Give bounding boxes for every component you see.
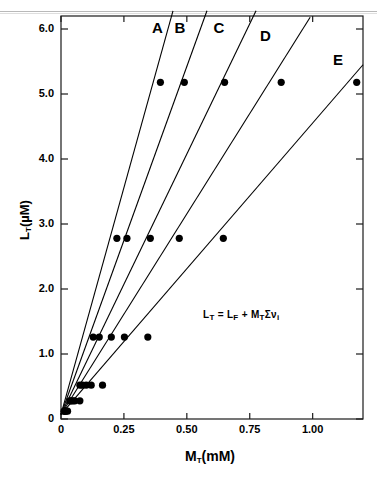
x-tick-label: 0.25: [104, 423, 144, 435]
y-tick-label: 1.0: [20, 347, 54, 359]
eqn-equals: =: [218, 309, 224, 320]
eqn-lf-sub: F: [233, 313, 238, 322]
eqn-plus: +: [242, 309, 248, 320]
equation-annotation: LT = LF + MTΣνi: [203, 309, 279, 322]
y-tick-label: 2.0: [20, 282, 54, 294]
y-axis-title-main: L: [17, 232, 32, 240]
curve-label-c: C: [214, 19, 225, 36]
x-tick-label: 0: [41, 423, 81, 435]
y-tick-label: 4.0: [20, 152, 54, 164]
figure-container: LT(µM) MT(mM) LT = LF + MTΣνi 01.02.03.0…: [0, 0, 377, 481]
eqn-sum-sub: i: [277, 313, 280, 322]
y-tick-label: 3.0: [20, 217, 54, 229]
eqn-sum: Σν: [265, 309, 277, 320]
x-tick-label: 0.50: [167, 423, 207, 435]
curve-label-d: D: [260, 27, 271, 44]
x-tick-label: 0.75: [230, 423, 270, 435]
axis-ticks: [61, 16, 363, 419]
eqn-mt: M: [251, 309, 260, 320]
x-axis-title-main: M: [185, 448, 197, 464]
curve-label-b: B: [175, 19, 186, 36]
curve-label-a: A: [152, 19, 163, 36]
data-point-markers: [60, 79, 360, 415]
y-tick-label: 6.0: [20, 22, 54, 34]
x-axis-title: MT(mM): [110, 448, 310, 465]
x-tick-label: 1.00: [293, 423, 333, 435]
x-axis-title-unit: (mM): [202, 448, 235, 464]
series-lines: [61, 11, 363, 415]
plot-canvas: [0, 0, 377, 481]
curve-label-e: E: [333, 51, 343, 68]
y-tick-label: 5.0: [20, 87, 54, 99]
eqn-lt-sub: T: [209, 313, 214, 322]
plot-frame: [61, 16, 363, 419]
